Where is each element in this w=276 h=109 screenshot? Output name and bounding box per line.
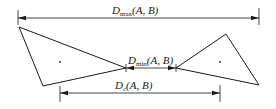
- triangle-a: [19, 27, 126, 86]
- triangle-a-centroid: [59, 61, 61, 63]
- dmin-args: (A, B): [147, 54, 173, 66]
- dc-args: (A, B): [126, 79, 152, 91]
- dc-symbol: D: [115, 79, 123, 91]
- dmin-symbol: D: [128, 54, 136, 66]
- dmax-subscript: max: [120, 10, 132, 18]
- dmin-subscript: min: [136, 60, 147, 68]
- triangle-b-centroid: [219, 61, 221, 63]
- dc-label: Dc(A, B): [115, 80, 152, 93]
- dmax-symbol: D: [112, 4, 120, 16]
- diagram-canvas: Dmax(A, B) Dmin(A, B) Dc(A, B): [0, 0, 276, 109]
- dmax-args: (A, B): [132, 4, 158, 16]
- dmin-label: Dmin(A, B): [128, 55, 173, 68]
- dmax-label: Dmax(A, B): [112, 5, 158, 18]
- triangle-b: [176, 34, 259, 85]
